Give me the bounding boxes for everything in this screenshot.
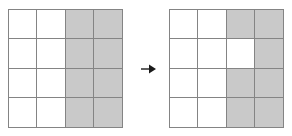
grid-cell bbox=[227, 69, 256, 99]
grid-cell bbox=[66, 39, 95, 69]
grid-cell bbox=[66, 69, 95, 99]
grid-cell bbox=[169, 98, 198, 128]
grid-cell bbox=[198, 9, 227, 39]
grid-cell bbox=[227, 39, 256, 69]
arrow-right-icon bbox=[140, 62, 157, 76]
grid-cell bbox=[37, 98, 66, 128]
grid-cell bbox=[8, 39, 37, 69]
grid-cell bbox=[227, 98, 256, 128]
grid-cell bbox=[255, 39, 284, 69]
grid-cell bbox=[94, 9, 123, 39]
grid-cell bbox=[255, 98, 284, 128]
grid-cell bbox=[66, 9, 95, 39]
grid-cell bbox=[94, 98, 123, 128]
grid-cell bbox=[255, 69, 284, 99]
left-grid bbox=[8, 9, 123, 128]
grid-cell bbox=[66, 98, 95, 128]
grid-cell bbox=[37, 69, 66, 99]
grid-cell bbox=[198, 39, 227, 69]
grid-cell bbox=[94, 69, 123, 99]
grid-cell bbox=[37, 39, 66, 69]
grid-cell bbox=[37, 9, 66, 39]
grid-cell bbox=[8, 9, 37, 39]
grid-cell bbox=[255, 9, 284, 39]
grid-cell bbox=[198, 69, 227, 99]
grid-cell bbox=[227, 9, 256, 39]
grid-cell bbox=[8, 98, 37, 128]
grid-cell bbox=[169, 9, 198, 39]
grid-cell bbox=[94, 39, 123, 69]
grid-cell bbox=[8, 69, 37, 99]
right-grid bbox=[169, 9, 284, 128]
grid-cell bbox=[169, 39, 198, 69]
grid-cell bbox=[169, 69, 198, 99]
grid-transformation-figure bbox=[0, 0, 292, 136]
grid-cell bbox=[198, 98, 227, 128]
